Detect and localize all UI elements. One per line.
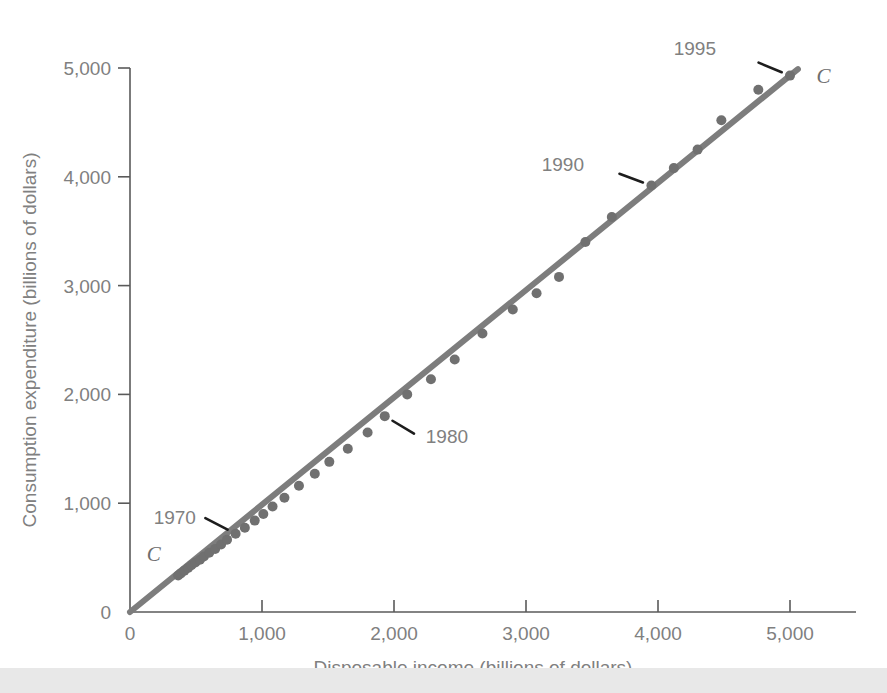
annotation-leader-line: [759, 63, 782, 73]
data-point: [363, 427, 373, 437]
consumption-function-scatter-plot: 01,0002,0003,0004,0005,000 01,0002,0003,…: [0, 0, 887, 693]
y-tick-label: 0: [100, 602, 111, 623]
page-footer-band: [0, 668, 887, 693]
y-tick-label: 4,000: [63, 167, 111, 188]
data-point: [279, 493, 289, 503]
annotation-leader-line: [205, 518, 227, 529]
y-tick-label: 3,000: [63, 276, 111, 297]
data-point: [580, 237, 590, 247]
data-point: [477, 328, 487, 338]
data-point: [240, 523, 250, 533]
data-point: [554, 272, 564, 282]
year-annotation-label: 1970: [154, 507, 196, 528]
x-tick-label: 3,000: [502, 623, 550, 644]
data-point: [450, 355, 460, 365]
data-point: [693, 145, 703, 155]
year-annotation-label: 1980: [426, 426, 468, 447]
annotation-leader-line: [619, 174, 642, 183]
data-point: [231, 529, 241, 539]
data-point: [380, 411, 390, 421]
y-tick-label: 5,000: [63, 58, 111, 79]
x-axis-tick-labels: 01,0002,0003,0004,0005,000: [125, 623, 814, 644]
data-point: [222, 535, 232, 545]
curve-label-c: C: [816, 64, 831, 88]
annotation-leader-line: [392, 421, 413, 434]
data-point: [669, 163, 679, 173]
year-annotations: 1970198019901995: [154, 38, 716, 528]
data-point: [402, 389, 412, 399]
x-tick-label: 4,000: [634, 623, 682, 644]
data-point: [646, 181, 656, 191]
year-annotation-label: 1995: [674, 38, 716, 59]
data-point: [250, 516, 260, 526]
data-point: [294, 481, 304, 491]
data-point: [532, 288, 542, 298]
x-tick-label: 0: [125, 623, 136, 644]
x-tick-label: 1,000: [238, 623, 286, 644]
data-point: [268, 501, 278, 511]
data-point: [324, 457, 334, 467]
y-axis-tick-labels: 01,0002,0003,0004,0005,000: [63, 58, 111, 623]
data-point: [607, 212, 617, 222]
curve-labels: CC: [147, 64, 832, 567]
x-tick-label: 5,000: [766, 623, 814, 644]
x-tick-label: 2,000: [370, 623, 418, 644]
y-tick-label: 2,000: [63, 384, 111, 405]
year-annotation-label: 1990: [542, 154, 584, 175]
y-axis-title: Consumption expenditure (billions of dol…: [19, 153, 40, 528]
axis-ticks: [118, 68, 790, 612]
y-tick-label: 1,000: [63, 493, 111, 514]
data-point: [785, 71, 795, 81]
data-point: [426, 374, 436, 384]
data-point: [343, 444, 353, 454]
data-point: [508, 305, 518, 315]
data-point: [258, 509, 268, 519]
data-point: [753, 85, 763, 95]
annotation-leader-lines: [205, 63, 781, 530]
data-point: [310, 469, 320, 479]
data-point: [716, 115, 726, 125]
curve-label-c: C: [147, 542, 162, 566]
chart-figure: 01,0002,0003,0004,0005,000 01,0002,0003,…: [0, 0, 887, 693]
